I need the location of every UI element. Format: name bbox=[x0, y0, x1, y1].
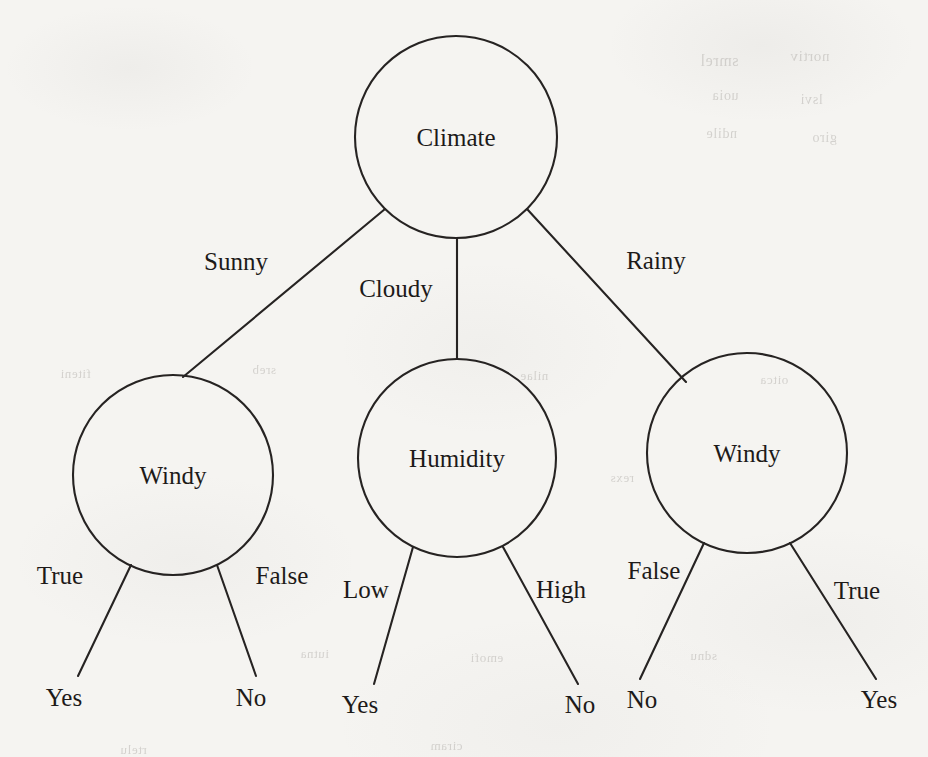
edges-from-humidity bbox=[374, 547, 578, 684]
edge-label-sunny: Sunny bbox=[204, 248, 268, 275]
edge-label-right-true: True bbox=[834, 577, 880, 604]
edge-humidity-low bbox=[374, 547, 413, 684]
leaf-left-no: No bbox=[236, 684, 267, 711]
edge-label-rainy: Rainy bbox=[626, 247, 686, 274]
leaf-right-yes: Yes bbox=[861, 686, 897, 713]
edge-label-cloudy: Cloudy bbox=[359, 275, 433, 302]
edges-from-left-windy bbox=[78, 565, 256, 676]
edge-root-to-left-windy bbox=[183, 209, 385, 377]
edge-label-left-false: False bbox=[256, 562, 309, 589]
leaf-right-no: No bbox=[627, 686, 658, 713]
diagram-canvas: smrelnortivuoialsvindilegirofitenisrebni… bbox=[0, 0, 928, 757]
leaf-humidity-no: No bbox=[565, 691, 596, 718]
edge-left-windy-false bbox=[217, 565, 256, 676]
edge-label-humidity-high: High bbox=[536, 576, 587, 603]
edge-label-humidity-low: Low bbox=[343, 576, 389, 603]
edge-labels-level-2: True False Low High False True bbox=[37, 557, 880, 604]
node-windy-right[interactable]: Windy bbox=[647, 353, 847, 553]
leaf-left-yes: Yes bbox=[46, 684, 82, 711]
edge-label-right-false: False bbox=[628, 557, 681, 584]
leaf-humidity-yes: Yes bbox=[342, 691, 378, 718]
leaf-labels: Yes No Yes No No Yes bbox=[46, 684, 897, 718]
edge-labels-level-1: Sunny Cloudy Rainy bbox=[204, 247, 686, 302]
node-climate[interactable]: Climate bbox=[355, 36, 557, 238]
node-windy-right-label: Windy bbox=[713, 440, 781, 467]
edge-right-windy-true bbox=[790, 543, 876, 679]
node-windy-left-label: Windy bbox=[139, 462, 207, 489]
node-humidity-label: Humidity bbox=[409, 445, 505, 472]
edge-root-to-right-windy bbox=[527, 209, 686, 382]
decision-tree-graphic: Climate Windy Humidity Windy Sunny Cloud… bbox=[0, 0, 928, 757]
edge-label-left-true: True bbox=[37, 562, 83, 589]
node-humidity[interactable]: Humidity bbox=[358, 359, 556, 557]
edge-left-windy-true bbox=[78, 565, 131, 676]
node-windy-left[interactable]: Windy bbox=[73, 375, 273, 575]
node-climate-label: Climate bbox=[416, 124, 495, 151]
edge-humidity-high bbox=[503, 547, 578, 684]
